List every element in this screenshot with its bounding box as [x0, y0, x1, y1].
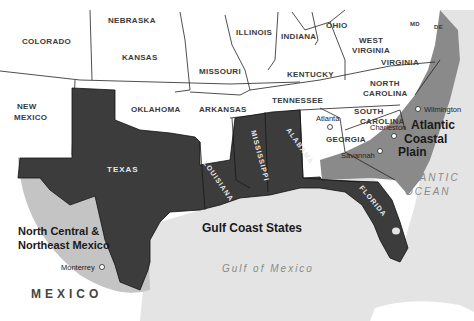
label-mexico-region-1: North Central & — [18, 225, 99, 237]
label-georgia: GEORGIA — [326, 135, 366, 144]
label-monterrey: Monterrey — [61, 263, 95, 272]
city-marker-monterrey — [100, 265, 105, 270]
label-kansas: KANSAS — [122, 53, 158, 62]
label-west-virginia-2: VIRGINIA — [352, 46, 390, 55]
label-colorado: COLORADO — [22, 37, 71, 46]
label-ohio: OHIO — [326, 21, 348, 30]
label-gulf-coast-states: Gulf Coast States — [202, 221, 302, 235]
label-oklahoma: OKLAHOMA — [131, 105, 181, 114]
city-marker-atlanta — [328, 125, 333, 130]
city-marker-savannah — [378, 149, 383, 154]
label-charleston: Charleston — [370, 123, 406, 132]
label-de: DE — [434, 24, 443, 30]
label-virginia: VIRGINIA — [381, 58, 419, 67]
map-svg: COLORADO NEBRASKA KANSAS NEW MEXICO OKLA… — [0, 0, 474, 321]
label-atlantic-coastal-3: Plain — [398, 145, 427, 159]
label-illinois: ILLINOIS — [236, 28, 273, 37]
label-mexico-country: MEXICO — [31, 287, 102, 301]
label-new-mexico-2: MEXICO — [14, 113, 47, 122]
label-south-carolina-1: SOUTH — [354, 107, 384, 116]
city-marker-charleston — [392, 134, 397, 139]
label-north-carolina-2: CAROLINA — [363, 89, 408, 98]
label-tennessee: TENNESSEE — [272, 96, 324, 105]
label-atlantic-ocean-2: OCEAN — [405, 186, 451, 197]
label-texas: TEXAS — [107, 165, 139, 174]
label-atlantic-ocean-1: ATLANTIC — [395, 172, 460, 183]
label-nebraska: NEBRASKA — [108, 16, 156, 25]
label-west-virginia-1: WEST — [359, 36, 383, 45]
label-mexico-region-2: Northeast Mexico — [18, 239, 110, 251]
label-indiana: INDIANA — [281, 32, 316, 41]
label-savannah: Savannah — [341, 151, 375, 160]
label-md: MD — [410, 21, 420, 27]
label-new-mexico-1: NEW — [17, 102, 37, 111]
label-atlantic-coastal-1: Atlantic — [411, 118, 455, 132]
label-wilmington: Wilmington — [424, 105, 461, 114]
label-kentucky: KENTUCKY — [287, 70, 334, 79]
label-missouri: MISSOURI — [199, 67, 241, 76]
label-atlanta: Atlanta — [316, 114, 340, 123]
label-north-carolina-1: NORTH — [370, 79, 400, 88]
map-container: COLORADO NEBRASKA KANSAS NEW MEXICO OKLA… — [0, 0, 474, 321]
label-atlantic-coastal-2: Coastal — [404, 132, 447, 146]
label-arkansas: ARKANSAS — [199, 105, 247, 114]
label-gulf-of-mexico: Gulf of Mexico — [222, 263, 314, 274]
city-marker-wilmington — [416, 107, 421, 112]
